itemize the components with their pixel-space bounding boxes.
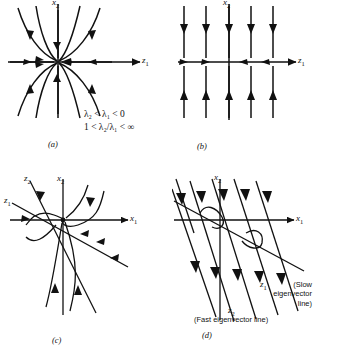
panel-c-plot: [0, 175, 172, 330]
eigenline-z1: [12, 203, 128, 267]
panel-a-axis-x-label: z1: [142, 55, 149, 67]
panel-a-letter: (a): [48, 139, 58, 149]
panel-d-plot: [172, 175, 343, 335]
panel-d-letter: (d): [202, 330, 212, 340]
panel-c-eigenlabel-z2: z2: [24, 173, 31, 185]
panel-c-axis-x-label: x1: [130, 213, 137, 225]
slow-note-line-1: (Slow: [270, 280, 312, 289]
eigenvalue-conditions: λ₂ < λ₁ < 0 1 < λ₂/λ₁ < ∞: [84, 108, 134, 134]
flow-arrows: [21, 191, 119, 295]
panel-c-eigenlabel-z1: z1: [4, 195, 11, 207]
panel-d: x2 x1 z1 z2 (Slow eigenvector line) (Fas…: [172, 175, 343, 355]
panel-a: z1 x2 λ₂ < λ₁ < 0 1 < λ₂/λ₁ < ∞ (a): [0, 0, 172, 160]
condition-line-1: λ₂ < λ₁ < 0: [84, 108, 134, 121]
slow-note-line-2: eigenvector: [248, 289, 312, 298]
panel-b-letter: (b): [197, 141, 207, 151]
panel-d-axis-y-label: x2: [214, 172, 221, 184]
eigenline-z1-slow: [174, 201, 304, 271]
slow-eigenvector-note: (Slow eigenvector line): [248, 280, 312, 308]
panel-c-axis-y-label: x2: [57, 173, 64, 185]
slow-note-line-3: line): [248, 299, 312, 308]
condition-line-2: 1 < λ₂/λ₁ < ∞: [84, 121, 134, 134]
flow-arrows: [176, 189, 286, 285]
panel-b: z1 x2 (b): [172, 0, 343, 160]
panel-b-axis-x-label: z1: [298, 55, 305, 67]
panel-c: x1 x2 z2 z1 (c): [0, 175, 172, 355]
panel-d-axis-x-label: x1: [296, 213, 303, 225]
panel-b-plot: [172, 0, 343, 150]
equilibrium-point: [61, 218, 66, 223]
fast-eigenvector-note: (Fast eigenvector line): [194, 315, 268, 324]
panel-b-axis-y-label: x2: [223, 0, 230, 9]
panel-c-letter: (c): [52, 335, 61, 345]
panel-a-axis-y-label: x2: [52, 0, 59, 9]
